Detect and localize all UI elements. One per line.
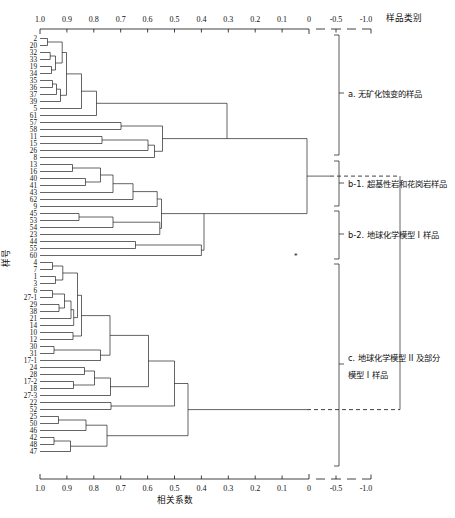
bot-tick-1: 0.9 [62,484,72,493]
top-tick-0: 1.0 [35,15,45,24]
dendrogram-links: * [40,39,400,452]
top-tick-6: 0.4 [196,15,206,24]
bot-tick-12: -1.0 [360,484,373,493]
group-label-b2: b-2. 地球化学模型 I 样品 [348,230,439,240]
top-tick-12: -1.0 [360,15,373,24]
sample-category-header: 样品类别 [386,12,422,23]
bot-tick-0: 1.0 [35,484,45,493]
top-tick-11: -0.5 [330,15,343,24]
dendrogram-figure: 1.0 0.9 0.8 0.7 0.6 0.5 0.4 0.3 0.2 0.1 … [0,0,455,518]
group-label-b1: b-1. 超基性岩和花岗岩样品 [348,179,447,189]
leaf-label: 47 [30,448,38,456]
bot-tick-7: 0.3 [223,484,233,493]
x-axis-title: 相关系数 [157,494,193,505]
bot-tick-11: -0.5 [330,484,343,493]
dendrogram-plot: 1.0 0.9 0.8 0.7 0.6 0.5 0.4 0.3 0.2 0.1 … [0,0,455,518]
bot-tick-3: 0.7 [116,484,126,493]
bot-tick-8: 0.2 [250,484,260,493]
top-tick-5: 0.5 [170,15,180,24]
top-tick-2: 0.8 [89,15,99,24]
bot-tick-5: 0.5 [170,484,180,493]
y-axis-title: 样号 [0,249,11,267]
top-tick-3: 0.7 [116,15,126,24]
bot-tick-4: 0.6 [143,484,153,493]
group-brackets: a. 无矿化蚀变的样品 b-1. 超基性岩和花岗岩样品 b-2. 地球化学模型 … [334,35,447,466]
top-tick-8: 0.2 [250,15,260,24]
top-tick-10: 0 [307,15,311,24]
bot-tick-2: 0.8 [89,484,99,493]
top-axis: 1.0 0.9 0.8 0.7 0.6 0.5 0.4 0.3 0.2 0.1 … [35,15,372,34]
top-tick-7: 0.3 [223,15,233,24]
bot-tick-10: 0 [307,484,311,493]
bottom-axis: 1.0 0.9 0.8 0.7 0.6 0.5 0.4 0.3 0.2 0.1 … [35,474,372,505]
bot-tick-6: 0.4 [196,484,206,493]
group-label-a: a. 无矿化蚀变的样品 [348,89,422,99]
top-tick-1: 0.9 [62,15,72,24]
top-tick-9: 0.1 [277,15,287,24]
leaf-label-group: 2203233193435363739561575811152681316404… [24,35,38,456]
top-tick-4: 0.6 [143,15,153,24]
group-label-c-line1: c. 地球化学模型 II 及部分 [348,353,440,363]
bot-tick-9: 0.1 [277,484,287,493]
root-marker: * [294,253,298,261]
group-label-c-line2: 模型 I 样品 [348,370,388,380]
